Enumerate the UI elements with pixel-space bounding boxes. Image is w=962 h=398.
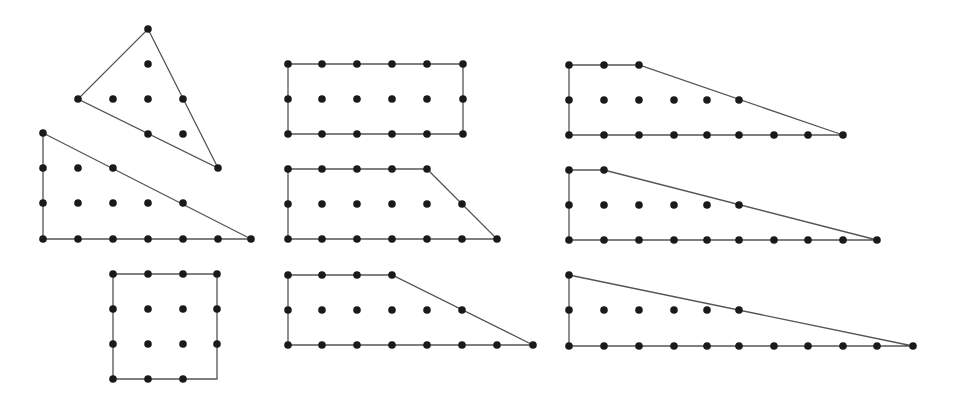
polygon-square — [109, 270, 221, 383]
lattice-point — [109, 95, 117, 103]
lattice-point — [635, 236, 643, 244]
lattice-point — [284, 341, 292, 349]
lattice-point — [459, 60, 467, 68]
lattice-point — [839, 131, 847, 139]
lattice-point — [388, 235, 396, 243]
lattice-point — [635, 201, 643, 209]
lattice-point — [318, 271, 326, 279]
lattice-point — [353, 200, 361, 208]
lattice-point — [109, 305, 117, 313]
lattice-point — [873, 342, 881, 350]
lattice-point — [839, 236, 847, 244]
lattice-point — [600, 96, 608, 104]
lattice-point — [179, 375, 187, 383]
polygon-trapezoid-right-2 — [565, 166, 881, 244]
polygon-outline — [113, 274, 217, 379]
lattice-point — [353, 235, 361, 243]
lattice-point — [703, 96, 711, 104]
lattice-point — [353, 341, 361, 349]
lattice-point — [353, 306, 361, 314]
lattice-point — [74, 235, 82, 243]
lattice-point — [318, 95, 326, 103]
lattice-point — [459, 95, 467, 103]
polygon-rectangle — [284, 60, 467, 138]
lattice-point — [770, 131, 778, 139]
lattice-point — [179, 95, 187, 103]
lattice-point — [353, 95, 361, 103]
lattice-point — [804, 131, 812, 139]
lattice-point — [109, 235, 117, 243]
lattice-point — [635, 131, 643, 139]
lattice-point — [74, 164, 82, 172]
lattice-point — [144, 60, 152, 68]
lattice-point — [353, 130, 361, 138]
lattice-point — [770, 342, 778, 350]
lattice-point — [703, 236, 711, 244]
lattice-point — [565, 96, 573, 104]
lattice-point — [74, 199, 82, 207]
lattice-point — [600, 342, 608, 350]
lattice-point — [804, 236, 812, 244]
lattice-point — [247, 235, 255, 243]
lattice-point — [144, 305, 152, 313]
lattice-point — [670, 131, 678, 139]
dot-grid-polygons — [0, 0, 962, 398]
lattice-point — [565, 61, 573, 69]
lattice-point — [144, 25, 152, 33]
lattice-point — [635, 61, 643, 69]
lattice-point — [144, 130, 152, 138]
lattice-point — [39, 199, 47, 207]
lattice-point — [735, 306, 743, 314]
lattice-point — [213, 340, 221, 348]
lattice-point — [144, 95, 152, 103]
lattice-point — [179, 235, 187, 243]
lattice-point — [703, 201, 711, 209]
lattice-point — [600, 61, 608, 69]
lattice-point — [423, 95, 431, 103]
lattice-point — [284, 130, 292, 138]
lattice-point — [459, 130, 467, 138]
lattice-point — [458, 200, 466, 208]
lattice-point — [353, 60, 361, 68]
polygon-tilted-triangle — [74, 25, 222, 172]
diagram-canvas — [0, 0, 962, 398]
lattice-point — [284, 271, 292, 279]
lattice-point — [284, 95, 292, 103]
lattice-point — [735, 342, 743, 350]
polygon-outline — [569, 170, 877, 240]
lattice-point — [284, 306, 292, 314]
lattice-point — [458, 306, 466, 314]
lattice-point — [109, 199, 117, 207]
lattice-point — [735, 236, 743, 244]
lattice-point — [600, 166, 608, 174]
polygon-right-triangle-left — [39, 129, 255, 243]
lattice-point — [388, 200, 396, 208]
lattice-point — [109, 164, 117, 172]
lattice-point — [600, 131, 608, 139]
lattice-point — [388, 95, 396, 103]
lattice-point — [770, 236, 778, 244]
lattice-point — [670, 342, 678, 350]
lattice-point — [635, 342, 643, 350]
lattice-point — [458, 235, 466, 243]
lattice-point — [144, 199, 152, 207]
lattice-point — [318, 130, 326, 138]
lattice-point — [804, 342, 812, 350]
lattice-point — [179, 130, 187, 138]
lattice-point — [318, 200, 326, 208]
lattice-point — [284, 165, 292, 173]
lattice-point — [74, 95, 82, 103]
lattice-point — [388, 306, 396, 314]
lattice-point — [565, 342, 573, 350]
lattice-point — [565, 131, 573, 139]
lattice-point — [839, 342, 847, 350]
lattice-point — [703, 306, 711, 314]
polygon-trapezoid-right-1 — [565, 61, 847, 139]
lattice-point — [39, 129, 47, 137]
lattice-point — [529, 341, 537, 349]
lattice-point — [703, 342, 711, 350]
polygon-outline — [288, 64, 463, 134]
lattice-point — [214, 164, 222, 172]
lattice-point — [423, 60, 431, 68]
lattice-point — [284, 235, 292, 243]
